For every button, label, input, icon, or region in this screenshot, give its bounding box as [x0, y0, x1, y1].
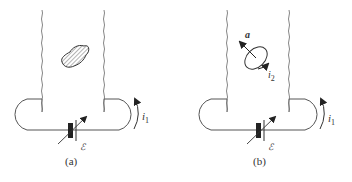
tube-left-wall [227, 10, 228, 112]
emf-label: ℰ [268, 142, 275, 152]
current-arrow-i1 [134, 99, 138, 129]
diagram-canvas: ℰ i1 (a) a i2 ℰ i1 (b) [0, 0, 352, 182]
caption-a: (a) [65, 155, 78, 168]
battery-plate-thick [256, 123, 261, 138]
tube-left-wall [42, 10, 43, 112]
current-label-i1: i1 [328, 112, 335, 127]
current-label-i1: i1 [142, 110, 149, 125]
axis-vector-a [240, 42, 256, 58]
tube-right-wall [104, 10, 105, 112]
caption-b: (b) [253, 155, 266, 168]
figure-b: a i2 ℰ i1 (b) [199, 10, 335, 168]
vector-label-a: a [245, 29, 250, 40]
current-label-i2: i2 [268, 69, 275, 83]
hatched-object [62, 45, 89, 67]
figure-a: ℰ i1 (a) [15, 10, 149, 168]
tube-right-wall [289, 10, 290, 112]
emf-label: ℰ [80, 142, 87, 152]
current-arrow-i1 [320, 99, 324, 129]
